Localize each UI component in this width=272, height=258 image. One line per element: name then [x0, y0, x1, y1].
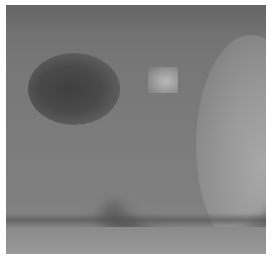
bottom-dark-band [6, 213, 266, 227]
bottom-light-area [6, 227, 266, 254]
dark-oval-region [28, 53, 120, 125]
image-frame [0, 0, 272, 258]
grayscale-photo [6, 5, 266, 254]
bright-highlight-spot [148, 67, 178, 93]
